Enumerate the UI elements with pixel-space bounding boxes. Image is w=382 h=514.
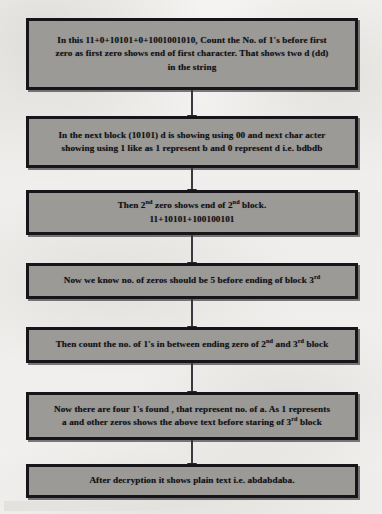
flow-node-4-sup: rd	[314, 273, 320, 280]
flow-node-count-ones-before-first-zero: In this 11+0+10101+0+1001001010, Count t…	[26, 18, 358, 90]
flow-node-final-plain-text: After decryption it shows plain text i.e…	[26, 464, 358, 498]
arrow-step6-to-step7	[191, 440, 193, 464]
flow-node-3-text-pre: Then 2	[118, 200, 146, 210]
arrow-step5-to-step6	[191, 363, 193, 392]
flow-node-6-text-post: block	[298, 417, 322, 427]
flow-node-2-line-1: In the next block (10101) d is showing u…	[38, 129, 346, 143]
arrow-step1-to-step2	[191, 90, 193, 116]
flow-node-count-ones-between-blocks: Then count the no. of 1's in between end…	[26, 327, 358, 363]
arrow-step4-to-step5	[191, 299, 193, 327]
flow-node-5-text-post: block	[304, 339, 328, 349]
flow-node-5-text-pre: Then count the no. of 1's in between end…	[56, 339, 266, 349]
flow-node-7-line-1: After decryption it shows plain text i.e…	[38, 474, 346, 488]
flow-node-3-sup-1: nd	[146, 198, 153, 205]
flow-node-5-text-mid: and 3	[273, 339, 298, 349]
flow-node-3-line-2: 11+10101+100100101	[38, 213, 346, 227]
scan-artifact	[4, 501, 204, 511]
flow-node-4-text-pre: Now we know no. of zeros should be 5 bef…	[64, 275, 314, 285]
flow-node-3-sup-2: nd	[233, 198, 240, 205]
flow-node-four-ones-represent-a: Now there are four 1's found , that repr…	[26, 392, 358, 440]
arrow-step2-to-step3	[191, 168, 193, 190]
flow-node-zeros-count-before-block-three: Now we know no. of zeros should be 5 bef…	[26, 263, 358, 299]
flow-node-second-zero-ends-second-block: Then 2nd zero shows end of 2nd block. 11…	[26, 190, 358, 235]
flow-node-next-block-mapping: In the next block (10101) d is showing u…	[26, 116, 358, 168]
flow-node-6-line-1: Now there are four 1's found , that repr…	[38, 403, 346, 417]
flow-node-5-line-1: Then count the no. of 1's in between end…	[38, 338, 346, 352]
flow-node-3-line-1: Then 2nd zero shows end of 2nd block.	[38, 199, 346, 213]
flow-node-4-line-1: Now we know no. of zeros should be 5 bef…	[38, 274, 346, 288]
flow-node-6-text-pre: a and other zeros shows the above text b…	[62, 417, 291, 427]
flow-node-3-text-mid: zero shows end of 2	[153, 200, 233, 210]
flow-node-6-line-2: a and other zeros shows the above text b…	[38, 416, 346, 430]
flow-node-1-line-1: In this 11+0+10101+0+1001001010, Count t…	[38, 34, 346, 48]
flowchart: In this 11+0+10101+0+1001001010, Count t…	[26, 0, 358, 514]
flow-node-3-text-post: block.	[240, 200, 267, 210]
flow-node-1-line-3: in the string	[38, 61, 346, 75]
flow-node-2-line-2: showing using 1 like as 1 represent b an…	[38, 142, 346, 156]
flow-node-1-line-2: zero as first zero shows end of first ch…	[38, 47, 346, 61]
arrow-step3-to-step4	[191, 235, 193, 263]
